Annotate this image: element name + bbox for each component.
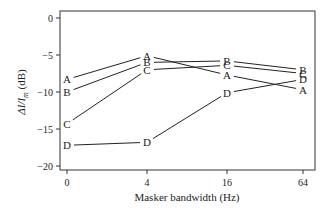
series-segment <box>154 61 220 62</box>
point-marker: D <box>63 139 71 151</box>
series-a: AAAA <box>63 50 307 96</box>
y-axis-label: ΔI/Im (dB) <box>15 69 30 116</box>
series-segment <box>74 58 141 78</box>
series-segment <box>153 96 221 138</box>
line-chart: 0−5−10−15−20 041664 AAAABBBBCCCCDDDD Mas… <box>0 0 330 210</box>
x-tick-label: 64 <box>298 177 308 188</box>
y-tick-label: −5 <box>42 50 53 61</box>
point-marker: A <box>63 73 71 85</box>
y-tick-label: −20 <box>37 161 53 172</box>
data-series: AAAABBBBCCCCDDDD <box>63 50 307 152</box>
y-tick-label: −15 <box>37 124 53 135</box>
x-axis-label: Masker bandwidth (Hz) <box>134 191 239 204</box>
series-segment <box>234 66 296 73</box>
point-marker: C <box>143 64 150 76</box>
point-marker: D <box>143 136 151 148</box>
y-tick-label: −10 <box>37 87 53 98</box>
plot-frame <box>60 11 315 170</box>
x-tick-label: 0 <box>65 177 70 188</box>
point-marker: D <box>299 73 307 85</box>
series-segment <box>74 143 140 145</box>
series-segment <box>154 66 220 70</box>
x-tick-label: 4 <box>145 177 150 188</box>
x-tick-label: 16 <box>222 177 232 188</box>
series-segment <box>234 62 296 69</box>
point-marker: D <box>223 87 231 99</box>
point-marker: C <box>63 118 70 130</box>
y-tick-label: 0 <box>48 13 53 24</box>
series-b: BBBB <box>63 55 306 98</box>
series-segment <box>74 65 141 90</box>
series-d: DDDD <box>63 73 307 151</box>
point-marker: A <box>299 84 307 96</box>
series-segment <box>73 74 141 120</box>
series-segment <box>154 57 220 73</box>
point-marker: B <box>63 86 70 98</box>
x-axis-ticks: 041664 <box>65 170 309 188</box>
point-marker: C <box>223 59 230 71</box>
y-axis-ticks: 0−5−10−15−20 <box>37 13 60 172</box>
